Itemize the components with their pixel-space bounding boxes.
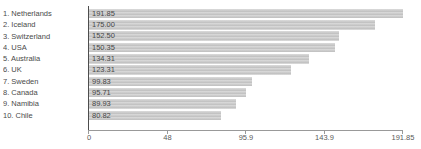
bar-chart: 1. Netherlands 2. Iceland 3. Switzerland… [0,0,421,149]
bar-row: 175.00 [89,19,403,30]
bar-row: 134.31 [89,53,403,64]
category-label: 4. USA [3,42,87,53]
bar-value-label: 134.31 [89,54,115,64]
category-label: 8. Canada [3,87,87,98]
bar: 134.31 [89,54,309,64]
bar: 123.31 [89,65,291,75]
category-label: 7. Sweden [3,76,87,87]
bar-row: 80.82 [89,110,403,121]
plot-area: 191.85 175.00 152.50 150.35 134.31 123.3… [88,6,403,131]
bar: 175.00 [89,20,375,30]
category-label: 6. UK [3,64,87,75]
bar: 152.50 [89,31,339,41]
category-label: 2. Iceland [3,19,87,30]
x-axis-tick-label: 48 [163,133,171,142]
bar-row: 123.31 [89,64,403,75]
category-label: 5. Australia [3,53,87,64]
bar-value-label: 80.82 [89,111,111,121]
bar: 191.85 [89,9,403,19]
bar-value-label: 175.00 [89,20,115,30]
category-label: 9. Namibia [3,98,87,109]
bar: 95.71 [89,88,246,98]
bar-row: 89.93 [89,98,403,109]
bar-row: 152.50 [89,31,403,42]
bar-value-label: 191.85 [89,9,115,19]
bar-value-label: 152.50 [89,31,115,41]
category-label: 3. Switzerland [3,31,87,42]
x-axis-tick-label: 0 [87,133,91,142]
bar-value-label: 95.71 [89,88,111,98]
bar-row: 191.85 [89,8,403,19]
bar-value-label: 123.31 [89,65,115,75]
bar: 150.35 [89,43,335,53]
bar: 99.83 [89,77,252,87]
x-axis-tick-label: 143.9 [315,133,334,142]
bar-row: 150.35 [89,42,403,53]
bar-value-label: 99.83 [89,77,111,87]
bar-row: 99.83 [89,76,403,87]
bar-value-label: 150.35 [89,43,115,53]
bar-row: 95.71 [89,87,403,98]
bar-value-label: 89.93 [89,99,111,109]
bar: 80.82 [89,111,221,121]
bar: 89.93 [89,99,236,109]
x-axis-tick-label: 191.85 [392,133,415,142]
category-label: 10. Chile [3,110,87,121]
x-axis-tick-label: 95.9 [239,133,254,142]
category-label: 1. Netherlands [3,8,87,19]
category-labels-column: 1. Netherlands 2. Iceland 3. Switzerland… [3,8,87,121]
